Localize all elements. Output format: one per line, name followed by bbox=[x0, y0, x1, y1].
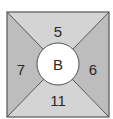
label-bottom: 11 bbox=[50, 92, 66, 109]
label-top: 5 bbox=[54, 23, 62, 40]
label-center: B bbox=[53, 56, 63, 73]
label-left: 7 bbox=[17, 61, 25, 78]
diagram: 5 6 11 7 B bbox=[0, 0, 113, 119]
label-right: 6 bbox=[89, 61, 97, 78]
